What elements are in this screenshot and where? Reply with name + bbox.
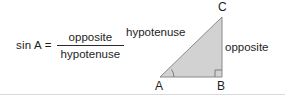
fraction-numerator: opposite	[65, 30, 116, 45]
vertex-label-b: B	[217, 79, 225, 93]
formula-fraction: opposite hypotenuse	[57, 30, 124, 61]
vertex-label-a: A	[155, 79, 163, 93]
side-label-hypotenuse: hypotenuse	[126, 26, 185, 38]
triangle-diagram: C B A hypotenuse opposite	[124, 0, 285, 95]
side-label-opposite: opposite	[225, 41, 268, 53]
vertex-label-c: C	[218, 0, 227, 14]
figure-container: sin A = opposite hypotenuse C B A hypote…	[0, 0, 285, 95]
fraction-denominator: hypotenuse	[57, 46, 124, 61]
formula-left-hand-side: sin A =	[16, 39, 52, 52]
sine-formula: sin A = opposite hypotenuse	[16, 30, 124, 61]
